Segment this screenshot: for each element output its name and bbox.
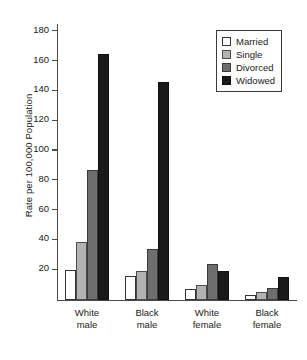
bar-divorced: [147, 249, 158, 300]
y-axis-tick: 100: [52, 149, 57, 150]
y-axis-tick: 180: [52, 30, 57, 31]
y-axis-tick: 20: [52, 269, 57, 270]
bar-widowed: [218, 271, 229, 299]
y-axis-tick-label: 120: [33, 113, 49, 124]
legend-item-divorced[interactable]: Divorced: [222, 61, 275, 74]
x-axis-group-label-line: Black: [222, 307, 307, 319]
y-axis-tick-label: 60: [38, 203, 49, 214]
legend-swatch-icon: [222, 50, 231, 59]
legend-item-label: Single: [236, 49, 262, 60]
legend-swatch-icon: [222, 37, 231, 46]
x-axis-group-label: Blackfemale: [222, 307, 307, 330]
y-axis-title: Rate per 100,000 Population: [23, 56, 34, 256]
y-axis-tick: 120: [52, 120, 57, 121]
bar-single: [76, 242, 87, 300]
legend-item-single[interactable]: Single: [222, 48, 275, 61]
bar-single: [196, 285, 207, 300]
legend-item-label: Married: [236, 36, 268, 47]
bar-divorced: [87, 170, 98, 300]
y-axis-tick: 140: [52, 90, 57, 91]
bar-widowed: [98, 54, 109, 300]
bar-divorced: [267, 288, 278, 300]
y-axis-line: [57, 24, 58, 301]
legend-item-label: Divorced: [236, 62, 274, 73]
y-axis-tick-label: 20: [38, 262, 49, 273]
legend: MarriedSingleDivorcedWidowed: [216, 30, 282, 92]
legend-item-married[interactable]: Married: [222, 35, 275, 48]
bar-widowed: [158, 82, 169, 300]
x-axis-line: [57, 300, 297, 301]
y-axis-tick-label: 180: [33, 24, 49, 35]
bar-married: [245, 295, 256, 299]
bar-divorced: [207, 264, 218, 300]
y-axis-tick-label: 140: [33, 83, 49, 94]
bar-single: [136, 271, 147, 299]
bar-group: [65, 25, 109, 300]
y-axis-tick-label: 100: [33, 143, 49, 154]
legend-swatch-icon: [222, 63, 231, 72]
y-axis-tick: 160: [52, 60, 57, 61]
y-axis-tick: 60: [52, 209, 57, 210]
bar-married: [125, 276, 136, 300]
x-axis-group-label-line: female: [222, 319, 307, 331]
legend-swatch-icon: [222, 76, 231, 85]
bar-married: [185, 289, 196, 299]
y-axis-tick: 40: [52, 239, 57, 240]
legend-item-label: Widowed: [236, 75, 275, 86]
bar-group: [125, 25, 169, 300]
y-axis-tick-label: 40: [38, 232, 49, 243]
bar-widowed: [278, 277, 289, 299]
bar-single: [256, 292, 267, 299]
y-axis-tick-label: 160: [33, 54, 49, 65]
y-axis-tick: 80: [52, 179, 57, 180]
bar-married: [65, 270, 76, 300]
y-axis-tick-label: 80: [38, 173, 49, 184]
bar-chart: Rate per 100,000 Population 204060801001…: [0, 0, 307, 360]
legend-item-widowed[interactable]: Widowed: [222, 74, 275, 87]
